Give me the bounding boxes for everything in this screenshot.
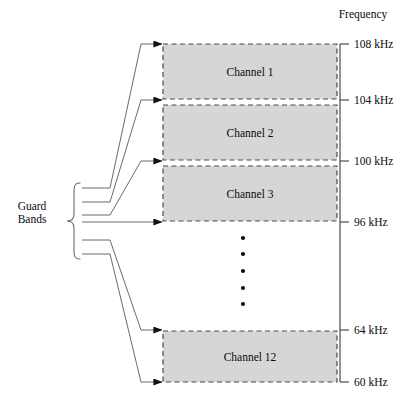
ellipsis-dot [241, 269, 245, 273]
guard-band-arrow [82, 254, 162, 382]
guard-band-arrow [82, 100, 162, 202]
fdm-channel-diagram: Frequency Guard Bands Channel 1Channel 2… [0, 0, 400, 406]
channel-box [163, 166, 337, 221]
frequency-axis [340, 44, 349, 382]
vertical-ellipsis [241, 236, 245, 306]
channel-box [163, 105, 337, 160]
ellipsis-dot [241, 286, 245, 290]
ellipsis-dot [241, 236, 245, 240]
guard-band-brace [67, 183, 80, 259]
ellipsis-dot [241, 252, 245, 256]
guard-band-arrow [82, 44, 162, 188]
channel-box [163, 44, 337, 99]
channel-box [163, 331, 337, 382]
diagram-canvas [0, 0, 400, 406]
ellipsis-dot [241, 302, 245, 306]
channel-box-group [163, 44, 337, 382]
guard-band-leader-lines [82, 44, 162, 382]
axis-tick-group [340, 44, 349, 382]
